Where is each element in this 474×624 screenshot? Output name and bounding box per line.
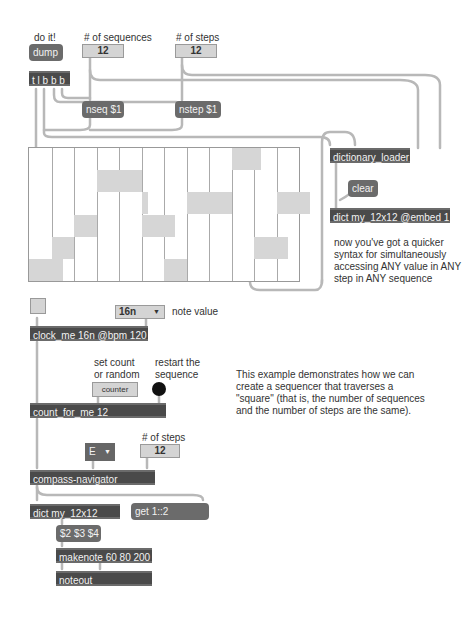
slider-bar[interactable]	[187, 192, 210, 214]
direction-menu[interactable]: E ▼	[85, 443, 115, 461]
dollar-message[interactable]: $2 $3 $4	[56, 525, 101, 542]
slider-bar[interactable]	[164, 259, 187, 281]
num-steps-label-2: # of steps	[142, 432, 185, 444]
grid-column-divider	[97, 148, 98, 281]
dictionary-loader-object[interactable]: dictionary_loader	[330, 148, 410, 163]
note-value-label: note value	[172, 306, 218, 318]
set-count-label: set count	[94, 357, 135, 369]
nseq-message[interactable]: nseq $1	[82, 101, 124, 118]
restart-label-1: restart the	[155, 357, 200, 369]
slider-bar[interactable]	[52, 237, 75, 259]
slider-bar[interactable]	[119, 170, 142, 192]
noteout-object[interactable]: noteout	[56, 571, 152, 586]
clock-me-object[interactable]: clock_me 16n @bpm 120	[30, 326, 148, 341]
steps-number-box[interactable]: 12	[175, 44, 217, 58]
note-value-menu[interactable]: 16n ▼	[115, 305, 165, 319]
multislider-grid[interactable]	[28, 147, 300, 282]
slider-bar[interactable]	[232, 148, 255, 170]
slider-bar[interactable]	[29, 259, 52, 281]
slider-bar-partial	[254, 148, 261, 170]
slider-bar[interactable]	[277, 192, 300, 214]
description-comment: This example demonstrates how we can cre…	[236, 369, 426, 417]
dropdown-arrow-icon: ▼	[104, 443, 111, 461]
clear-message[interactable]: clear	[348, 180, 378, 197]
compass-navigator-object[interactable]: compass-navigator	[30, 470, 155, 485]
steps-number-box-2[interactable]: 12	[140, 444, 180, 458]
quicker-syntax-comment: now you've got a quicker syntax for simu…	[334, 237, 464, 285]
slider-bar[interactable]	[254, 237, 277, 259]
dict-embed-object[interactable]: dict my_12x12 @embed 1	[330, 208, 450, 223]
grid-column-divider	[209, 148, 210, 281]
sequences-number-box[interactable]: 12	[82, 44, 124, 58]
counter-button[interactable]: counter	[92, 382, 138, 397]
count-for-me-object[interactable]: count_for_me 12	[30, 403, 166, 418]
slider-bar[interactable]	[97, 170, 120, 192]
dump-message[interactable]: dump	[29, 44, 63, 61]
get-message[interactable]: get 1::2	[131, 503, 209, 520]
grid-column-divider	[187, 148, 188, 281]
dropdown-arrow-icon: ▼	[153, 306, 160, 318]
makenote-object[interactable]: makenote 60 80 200	[56, 548, 152, 563]
dict-object[interactable]: dict my_12x12	[30, 504, 120, 519]
slider-bar-partial	[164, 215, 175, 237]
toggle[interactable]	[30, 298, 46, 314]
slider-bar-partial	[52, 259, 63, 281]
nstep-message[interactable]: nstep $1	[175, 101, 221, 118]
slider-bar[interactable]	[74, 215, 97, 237]
grid-column-divider	[119, 148, 120, 281]
slider-bar-partial	[142, 192, 149, 214]
or-random-label: or random	[94, 369, 140, 381]
bang-button[interactable]	[152, 382, 166, 396]
direction-menu-label: E	[89, 446, 96, 457]
note-value-menu-label: 16n	[119, 306, 136, 317]
do-it-label: do it!	[34, 32, 56, 44]
slider-bar-partial	[277, 237, 288, 259]
grid-column-divider	[277, 148, 278, 281]
slider-bar[interactable]	[209, 192, 232, 214]
num-sequences-label: # of sequences	[84, 32, 152, 44]
slider-bar[interactable]	[142, 215, 165, 237]
num-steps-label: # of steps	[176, 32, 219, 44]
slider-bar-partial	[299, 192, 310, 214]
trigger-object[interactable]: t l b b b	[29, 71, 70, 86]
restart-label-2: sequence	[155, 369, 198, 381]
